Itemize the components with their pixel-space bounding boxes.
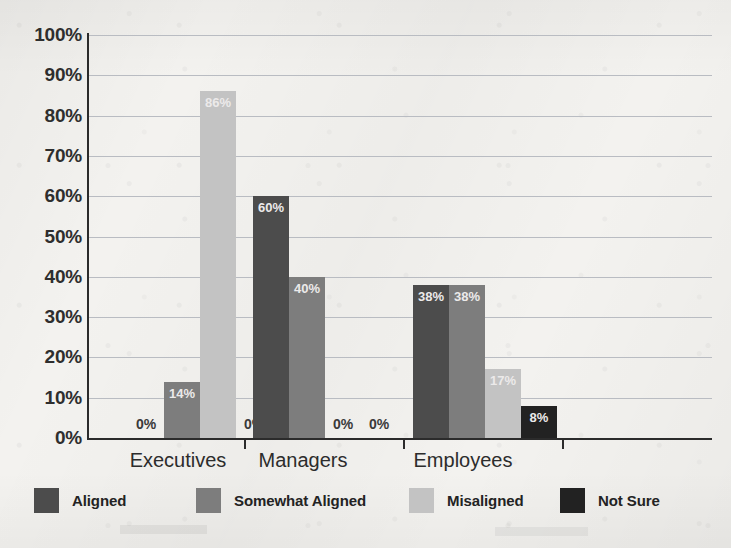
bar: 60%	[253, 196, 289, 438]
grouped-bar-chart: 100%90%80%70%60%50%40%30%20%10%0% 0%14%8…	[0, 0, 731, 548]
bar: 38%	[449, 285, 485, 438]
x-axis-tick	[244, 440, 246, 449]
category-label: Managers	[213, 449, 393, 472]
gridline	[87, 156, 712, 157]
y-axis-tick-label: 90%	[45, 64, 82, 86]
legend-color-swatch	[409, 488, 434, 513]
legend-color-swatch	[560, 488, 585, 513]
bar-value-label: 0%	[325, 416, 361, 432]
gridline	[87, 196, 712, 197]
legend-item-aligned[interactable]: Aligned	[34, 487, 126, 513]
chart-legend: AlignedSomewhat AlignedMisalignedNot Sur…	[0, 487, 731, 521]
bar-value-label: 40%	[289, 281, 325, 296]
bar: 40%	[289, 277, 325, 438]
y-axis-tick-label: 30%	[45, 306, 82, 328]
gridline	[87, 116, 712, 117]
bar: 14%	[164, 382, 200, 438]
legend-label: Somewhat Aligned	[234, 492, 366, 509]
y-axis-tick-label: 10%	[45, 387, 82, 409]
bar-value-label: 0%	[128, 416, 164, 432]
bar-value-label: 0%	[361, 416, 397, 432]
legend-label: Not Sure	[598, 492, 660, 509]
gridline	[87, 35, 712, 36]
x-axis-line	[87, 438, 712, 440]
legend-item-not-sure[interactable]: Not Sure	[560, 487, 660, 513]
y-axis-line	[87, 33, 89, 440]
y-axis-tick-label: 70%	[45, 145, 82, 167]
bar-value-label: 60%	[253, 200, 289, 215]
bar-value-label: 8%	[521, 410, 557, 425]
legend-label: Misaligned	[447, 492, 524, 509]
gridline	[87, 357, 712, 358]
y-axis-tick-label: 0%	[55, 427, 82, 449]
bar-value-label: 14%	[164, 386, 200, 401]
bar: 17%	[485, 369, 521, 438]
bar-value-label: 38%	[413, 289, 449, 304]
x-axis-tick	[403, 440, 405, 449]
legend-item-somewhat-aligned[interactable]: Somewhat Aligned	[196, 487, 366, 513]
y-axis-tick-label: 50%	[45, 226, 82, 248]
legend-label: Aligned	[72, 492, 126, 509]
gridline	[87, 75, 712, 76]
x-axis-tick	[562, 440, 564, 449]
y-axis-tick-label: 40%	[45, 266, 82, 288]
legend-color-swatch	[34, 488, 59, 513]
y-axis-tick-label: 80%	[45, 105, 82, 127]
category-label: Employees	[373, 449, 553, 472]
y-axis-tick-label: 100%	[34, 24, 82, 46]
bar: 8%	[521, 406, 557, 438]
y-axis-tick-label: 20%	[45, 346, 82, 368]
bar-value-label: 86%	[200, 95, 236, 110]
legend-color-swatch	[196, 488, 221, 513]
gridline	[87, 317, 712, 318]
bar-value-label: 38%	[449, 289, 485, 304]
gridline	[87, 237, 712, 238]
bar-value-label: 17%	[485, 373, 521, 388]
gridline	[87, 277, 712, 278]
legend-item-misaligned[interactable]: Misaligned	[409, 487, 524, 513]
y-axis-tick-label: 60%	[45, 185, 82, 207]
bar: 86%	[200, 91, 236, 438]
bar: 38%	[413, 285, 449, 438]
